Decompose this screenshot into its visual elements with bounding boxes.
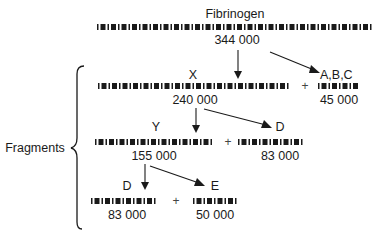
x-mass: 240 000	[172, 93, 217, 107]
d1-chain	[238, 139, 303, 145]
arrow-y-to-d	[141, 164, 149, 190]
plus-sign: +	[301, 79, 308, 93]
plus-sign: +	[172, 194, 179, 208]
fibrinogen-mass: 344 000	[214, 33, 259, 47]
peptide-chains	[91, 24, 372, 204]
arrow-fibrinogen-to-abc	[270, 52, 320, 73]
y-mass: 155 000	[131, 149, 176, 163]
e-chain	[193, 198, 237, 204]
d2-mass: 83 000	[108, 208, 146, 222]
e-label: E	[211, 179, 219, 193]
d2-label: D	[122, 179, 131, 193]
d1-label: D	[275, 120, 284, 134]
fragments-brace	[71, 66, 84, 229]
fragments-label: Fragments	[5, 141, 65, 155]
x-byproduct-mass: 45 000	[320, 93, 358, 107]
d1-mass: 83 000	[261, 149, 299, 163]
fibrinogen-chain	[97, 24, 372, 30]
plus-sign: +	[224, 135, 231, 149]
x-byproduct-chain	[318, 83, 358, 89]
abc-label: A,B,C	[320, 68, 353, 82]
arrow-x-to-d	[204, 109, 272, 128]
x-chain	[98, 83, 289, 89]
x-label: X	[189, 68, 198, 82]
e-mass: 50 000	[196, 208, 234, 222]
arrow-fibrinogen-to-x	[234, 50, 242, 79]
d2-chain	[91, 198, 156, 204]
fibrinogen-degradation-diagram: Fibrinogen 344 000 A,B,C X + 240 000 45 …	[0, 0, 385, 234]
y-chain	[95, 139, 212, 145]
arrow-x-to-y	[192, 108, 200, 133]
arrow-y-to-e	[150, 166, 205, 186]
y-label: Y	[152, 120, 161, 134]
fibrinogen-label: Fibrinogen	[205, 7, 264, 21]
